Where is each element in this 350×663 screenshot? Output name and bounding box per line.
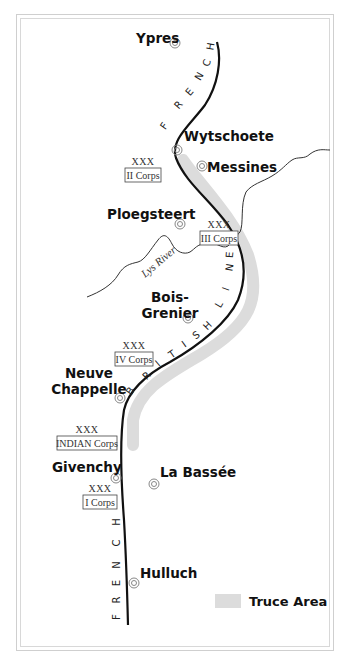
- corps-echelon-label: XXX: [122, 340, 145, 351]
- town-marker-inner-icon: [178, 222, 183, 227]
- corps-echelon-label: XXX: [75, 424, 98, 435]
- corps-marker: XXXI Corps: [83, 483, 117, 509]
- town-messines: Messines: [197, 159, 277, 175]
- legend: Truce Area: [215, 594, 327, 609]
- corps-echelon-label: XXX: [207, 219, 230, 230]
- town-neuve-chappelle: NeuveChappelle: [51, 365, 127, 403]
- town-wytschoete: Wytschoete: [172, 128, 274, 155]
- front-line-letter: L: [213, 299, 226, 310]
- town-label: Hulluch: [140, 565, 197, 581]
- map: Lys River FRENCHBRITISHLINEFRENCH YpresW…: [0, 0, 350, 663]
- corps-echelon-label: XXX: [88, 483, 111, 494]
- town-label: Ypres: [135, 30, 179, 46]
- river-label: Lys River: [138, 243, 179, 280]
- corps-marker: XXXII Corps: [125, 156, 161, 182]
- town-label: Wytschoete: [184, 128, 274, 144]
- town-label: Messines: [207, 159, 277, 175]
- front-line-letter: C: [111, 539, 122, 546]
- legend-swatch: [215, 594, 241, 608]
- town-marker-inner-icon: [114, 476, 119, 481]
- town-label: Givenchy: [52, 459, 122, 475]
- corps-name: IV Corps: [116, 354, 153, 365]
- front-line-letter: H: [204, 42, 216, 51]
- front-line-letter: H: [201, 319, 214, 332]
- town-label: Ploegsteert: [107, 206, 196, 222]
- town-marker-icon: [197, 161, 207, 171]
- town-ypres: Ypres: [135, 30, 180, 48]
- front-line-letter: F: [111, 614, 122, 620]
- town-ploegsteert: Ploegsteert: [107, 206, 196, 229]
- front-line-letter: I: [220, 286, 231, 293]
- corps-marker: XXXIV Corps: [115, 340, 153, 366]
- corps-echelon-label: XXX: [131, 156, 154, 167]
- front-line-letter: S: [190, 329, 202, 342]
- corps-name: II Corps: [126, 170, 159, 181]
- front-line-letter: N: [223, 263, 235, 272]
- town-marker-inner-icon: [132, 581, 137, 586]
- town-label: Chappelle: [51, 381, 127, 397]
- corps-marker: XXXINDIAN Corps: [56, 424, 118, 450]
- map-frame-outer: [17, 15, 334, 651]
- map-frame-inner: [21, 19, 330, 647]
- front-line-letter: I: [180, 339, 189, 350]
- corps-name: INDIAN Corps: [56, 438, 118, 449]
- corps-name: I Corps: [85, 497, 115, 508]
- front-line-letter: H: [111, 518, 122, 526]
- front-line-letter: N: [192, 70, 205, 82]
- front-line-letter: C: [200, 58, 213, 68]
- front-line-letter: R: [172, 99, 185, 111]
- corps-name: III Corps: [201, 233, 237, 244]
- front-line-letter: E: [224, 251, 236, 258]
- front-line-letter: I: [153, 358, 162, 368]
- front-line-letter: E: [111, 580, 122, 586]
- town-bois-grenier: Bois-Grenier: [142, 289, 199, 323]
- legend-label: Truce Area: [249, 594, 327, 609]
- town-label: La Bassée: [160, 464, 236, 480]
- town-marker-inner-icon: [152, 482, 157, 487]
- town-la-bass-e: La Bassée: [149, 464, 236, 489]
- town-label: Bois-: [151, 289, 189, 305]
- town-marker-icon: [172, 145, 182, 155]
- town-label: Grenier: [142, 305, 199, 321]
- town-marker-icon: [129, 578, 139, 588]
- town-givenchy: Givenchy: [52, 459, 122, 483]
- town-marker-inner-icon: [200, 164, 205, 169]
- front-line-letter: F: [158, 120, 170, 131]
- front-line-letter: E: [183, 86, 195, 98]
- town-label: Neuve: [65, 365, 113, 381]
- town-marker-icon: [149, 479, 159, 489]
- town-hulluch: Hulluch: [129, 565, 197, 588]
- front-line-letter: N: [111, 561, 122, 568]
- front-line-letter: R: [111, 596, 122, 603]
